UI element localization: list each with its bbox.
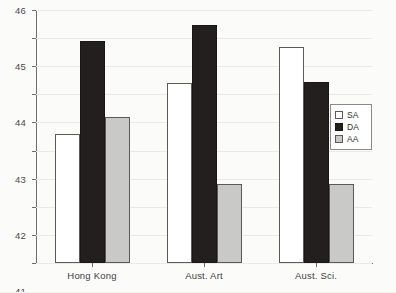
- x-tick-label: Hong Kong: [67, 270, 116, 281]
- bar-sa-0: [55, 134, 80, 263]
- y-tick-label: 44: [15, 117, 26, 128]
- bar-aa-2: [329, 184, 354, 263]
- y-tick-label: 43: [15, 173, 26, 184]
- bars-layer: [36, 10, 372, 263]
- legend-swatch-da-icon: [335, 123, 343, 131]
- y-tick-label: 46: [15, 5, 26, 16]
- legend-label-sa: SA: [347, 110, 359, 120]
- x-tick-mark: [204, 263, 205, 267]
- legend-item-sa: SA: [335, 109, 368, 121]
- legend-item-aa: AA: [335, 133, 368, 145]
- x-tick-label: Aust. Sci.: [295, 270, 337, 281]
- bar-aa-0: [105, 117, 130, 263]
- bar-aa-1: [217, 184, 242, 263]
- x-tick-label: Aust. Art: [185, 270, 223, 281]
- y-tick-label: 45: [15, 61, 26, 72]
- bar-sa-1: [167, 83, 192, 263]
- legend-swatch-sa-icon: [335, 111, 343, 119]
- bar-da-1: [192, 25, 217, 263]
- legend-swatch-aa-icon: [335, 135, 343, 143]
- bar-da-0: [80, 41, 105, 263]
- bar-chart: 37383940414243444546 Hong KongAust. ArtA…: [0, 0, 396, 293]
- x-tick-mark: [316, 263, 317, 267]
- bar-sa-2: [279, 47, 304, 263]
- legend-label-aa: AA: [347, 134, 359, 144]
- y-tick-label: 42: [15, 229, 26, 240]
- x-tick-mark: [92, 263, 93, 267]
- y-tick-mark: 37: [32, 263, 36, 264]
- legend-item-da: DA: [335, 121, 368, 133]
- bar-da-2: [304, 82, 329, 263]
- legend-label-da: DA: [347, 122, 359, 132]
- legend: SA DA AA: [330, 104, 372, 150]
